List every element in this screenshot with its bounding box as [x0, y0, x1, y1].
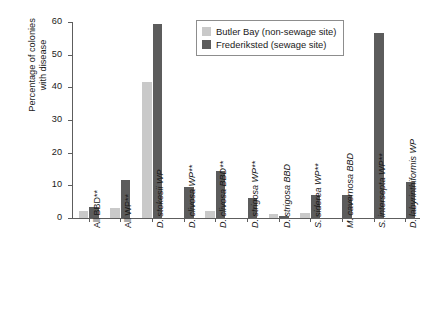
legend-swatch-frederiksted [202, 40, 211, 49]
legend-label-butler-bay: Butler Bay (non-sewage site) [216, 26, 336, 37]
legend-swatch-butler-bay [202, 27, 211, 36]
y-axis-tick-label: 0 [36, 213, 62, 222]
y-axis-tick [68, 87, 72, 88]
y-axis-tick-label: 20 [36, 148, 62, 157]
legend-item: Frederiksted (sewage site) [202, 38, 336, 51]
x-axis-tick [405, 218, 406, 222]
y-axis-title-line1: Percentage of colonies [27, 18, 38, 111]
legend-label-frederiksted: Frederiksted (sewage site) [216, 39, 326, 50]
x-axis-category-label: D. strigosa BBD [283, 164, 292, 228]
bar [110, 208, 120, 218]
y-axis-tick [68, 120, 72, 121]
x-axis-tick [184, 218, 185, 222]
bar [300, 213, 310, 218]
x-axis-tick [279, 218, 280, 222]
y-axis-tick [68, 185, 72, 186]
x-axis-tick [374, 218, 375, 222]
bar-chart: Percentage of colonies with disease 0102… [0, 0, 432, 336]
x-axis-category-label: S. intersepta WP** [378, 153, 387, 228]
x-axis-category-label: D. clivosa BBD** [219, 161, 228, 228]
y-axis-tick [68, 218, 72, 219]
y-axis-tick-label: 30 [36, 115, 62, 124]
y-axis-tick-label: 50 [36, 50, 62, 59]
bar [79, 211, 89, 218]
x-axis-category-label: D. strigosa WP** [251, 161, 260, 228]
bar [269, 214, 279, 218]
y-axis-tick [68, 153, 72, 154]
x-axis-category-label: All WP** [124, 194, 133, 228]
y-axis-tick [68, 22, 72, 23]
y-axis-tick-label: 60 [36, 17, 62, 26]
y-axis-line [72, 22, 73, 218]
x-axis-category-label: M. cavernosa BBD [346, 153, 355, 228]
x-axis-category-label: D. labyrinthiformis WP [409, 139, 418, 228]
y-axis-tick-label: 40 [36, 82, 62, 91]
x-axis-category-label: S. siderea WP** [314, 163, 323, 228]
x-axis-tick [215, 218, 216, 222]
legend: Butler Bay (non-sewage site) Frederikste… [196, 20, 344, 56]
x-axis-category-label: D. clivosa WP** [188, 165, 197, 228]
y-axis-tick-label: 10 [36, 180, 62, 189]
x-axis-tick [247, 218, 248, 222]
bar [142, 82, 152, 218]
y-axis-title-line2: with disease [38, 18, 49, 111]
x-axis-tick [342, 218, 343, 222]
x-axis-tick [120, 218, 121, 222]
bar [205, 211, 215, 219]
x-axis-tick [89, 218, 90, 222]
x-axis-category-label: All BBD** [93, 190, 102, 228]
x-axis-tick [310, 218, 311, 222]
legend-item: Butler Bay (non-sewage site) [202, 25, 336, 38]
x-axis-category-label: D. stokesii WP [156, 169, 165, 228]
x-axis-tick [152, 218, 153, 222]
y-axis-tick [68, 55, 72, 56]
